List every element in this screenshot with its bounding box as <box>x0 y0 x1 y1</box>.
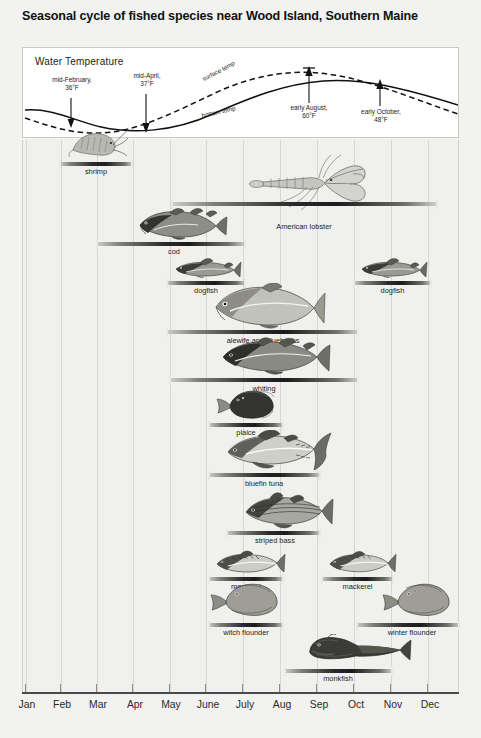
tuna-icon <box>222 430 332 472</box>
month-axis-line <box>22 692 459 694</box>
annotation-line1: mid-April, <box>134 72 161 79</box>
bar-start-cap <box>226 529 228 538</box>
species-gantt-chart: shrimp American <box>22 140 459 692</box>
mackerel-icon <box>212 550 286 576</box>
bar-end-cap <box>319 471 321 480</box>
mid-february-arrow <box>68 98 75 128</box>
annotation-line2: 60°F <box>302 112 316 119</box>
axis-tick <box>132 684 133 692</box>
bar-start-cap <box>96 240 98 249</box>
species-label: American lobster <box>229 222 379 231</box>
species-label: shrimp <box>59 167 133 176</box>
axis-tick <box>242 684 243 692</box>
bar-start-cap <box>284 667 286 676</box>
axis-tick <box>96 684 97 692</box>
month-label-oct: Oct <box>336 699 376 710</box>
early-october-arrow <box>376 79 383 106</box>
early-august-arrow <box>303 66 315 103</box>
species-label: dogfish <box>353 286 432 295</box>
dogfish-icon <box>172 257 242 279</box>
infographic-page: Seasonal cycle of fished species near Wo… <box>0 0 481 738</box>
month-label-mar: Mar <box>78 699 118 710</box>
axis-tick <box>316 684 317 692</box>
whiting-icon <box>217 335 331 377</box>
gridline <box>26 140 27 692</box>
bar-end-cap <box>436 200 438 209</box>
annotation-mid-february: mid-February, 36°F <box>41 76 103 91</box>
bar-whiting <box>169 378 359 382</box>
bar-monkfish <box>284 669 393 673</box>
bar-start-cap <box>356 621 358 630</box>
bar-shrimp <box>59 162 133 166</box>
annotation-early-august: early August, 60°F <box>278 104 340 119</box>
annotation-line1: mid-February, <box>52 76 91 83</box>
bar-alewife <box>166 330 359 334</box>
bar-witch-flounder <box>208 623 284 627</box>
species-label: bluefin tuna <box>224 479 304 488</box>
mackerel-icon <box>325 550 397 576</box>
annotation-line1: early August, <box>291 104 328 111</box>
species-label: cod <box>134 247 214 256</box>
axis-tick <box>25 684 26 692</box>
axis-tick <box>205 684 206 692</box>
month-label-may: May <box>151 699 191 710</box>
month-label-sep: Sep <box>299 699 339 710</box>
month-label-feb: Feb <box>42 699 82 710</box>
dogfish-icon <box>358 257 428 279</box>
cod-icon <box>132 205 228 241</box>
bar-bluefin-tuna <box>208 473 321 477</box>
axis-tick <box>353 684 354 692</box>
axis-tick <box>279 684 280 692</box>
bar-start-cap <box>208 471 210 480</box>
species-label: witch flounder <box>196 628 296 637</box>
month-label-july: July <box>225 699 265 710</box>
axis-tick <box>169 684 170 692</box>
bar-end-cap <box>244 240 246 249</box>
bar-start-cap <box>166 328 168 337</box>
month-label-aug: Aug <box>262 699 302 710</box>
axis-tick <box>390 684 391 692</box>
annotation-line2: 48°F <box>374 116 388 123</box>
plaice-icon <box>216 388 280 422</box>
annotation-line2: 36°F <box>65 84 79 91</box>
annotation-early-october: early October, 48°F <box>350 108 412 123</box>
month-label-dec: Dec <box>410 699 450 710</box>
bass-icon <box>240 492 334 530</box>
annotation-line1: early October, <box>361 108 401 115</box>
axis-tick <box>427 684 428 692</box>
flounder-icon <box>210 580 284 622</box>
bar-start-cap <box>169 376 171 385</box>
flounder-icon <box>382 580 456 622</box>
bar-dogfish-fall <box>353 281 432 285</box>
bar-cod <box>96 242 246 246</box>
bar-striped-bass <box>226 531 321 535</box>
month-label-jan: Jan <box>7 699 47 710</box>
page-title: Seasonal cycle of fished species near Wo… <box>22 9 462 23</box>
month-label-apr: Apr <box>115 699 155 710</box>
species-label: monkfish <box>298 674 378 683</box>
bar-end-cap <box>357 328 359 337</box>
alewife-icon <box>208 283 326 329</box>
month-label-june: June <box>188 699 228 710</box>
axis-tick <box>60 684 61 692</box>
gridline <box>97 140 98 692</box>
month-label-nov: Nov <box>373 699 413 710</box>
bar-plaice <box>208 423 284 427</box>
mid-april-arrow <box>142 94 149 133</box>
bar-end-cap <box>357 376 359 385</box>
annotation-line2: 37°F <box>140 80 154 87</box>
gridline <box>61 140 62 692</box>
bar-end-cap <box>391 667 393 676</box>
annotation-mid-april: mid-April, 37°F <box>118 72 176 87</box>
monkfish-icon <box>302 634 412 668</box>
shrimp-icon <box>67 125 129 159</box>
bar-winter-flounder <box>356 623 460 627</box>
species-label: striped bass <box>230 536 320 545</box>
